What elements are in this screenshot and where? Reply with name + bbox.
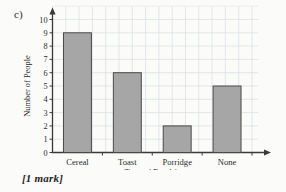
y-axis-title: Number of People [23,55,32,117]
y-axis-tick-label: 1 [43,135,47,144]
bars [63,33,241,153]
x-axis-category-label: Toast [118,157,137,167]
x-axis-title: Type of Breakfast [125,167,187,171]
y-axis-tick-label: 5 [43,82,47,91]
bar-chart-canvas: 012345678910CerealToastPorridgeNoneType … [0,0,286,170]
bar-chart: 012345678910CerealToastPorridgeNoneType … [0,0,286,170]
y-axis-tick-label: 6 [43,69,47,78]
y-axis-tick-label: 4 [43,95,47,104]
bar [113,73,141,153]
bar [63,33,91,153]
y-axis-tick-label: 3 [43,109,47,118]
y-axis-arrow-icon [49,8,55,15]
y-axis-tick-label: 7 [43,55,47,64]
y-axis-tick-label: 2 [43,122,47,131]
bar [163,126,191,153]
x-axis-arrow-icon [264,149,271,155]
y-axis-tick-label: 10 [39,16,47,25]
x-axis-category-label: None [218,157,237,167]
bar [213,86,241,153]
y-axis-tick-label: 8 [43,42,47,51]
mark-allocation-note: [1 mark] [22,172,63,184]
x-axis-category-label: Cereal [66,157,89,167]
y-axis-tick-label: 9 [43,29,47,38]
y-axis-tick-label: 0 [43,149,47,158]
exam-question-figure: c) 012345678910CerealToastPorridgeNoneTy… [0,0,286,192]
x-axis-category-label: Porridge [162,157,192,167]
